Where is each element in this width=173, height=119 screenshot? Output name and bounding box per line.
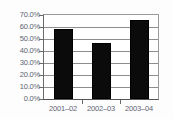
bar-chart: 0.0%10.0%20.0%30.0%40.0%50.0%60.0%70.0% … (0, 0, 173, 119)
x-axis-tick-label: 2002–03 (82, 104, 120, 113)
bar (92, 43, 111, 99)
y-axis-tick-label: 0.0% (0, 95, 40, 103)
y-axis-tick-label: 50.0% (0, 35, 40, 43)
bar (130, 20, 149, 99)
y-axis-tick-label: 60.0% (0, 23, 40, 31)
x-axis-tick-label: 2001–02 (44, 104, 82, 113)
x-axis-tick-label: 2003–04 (120, 104, 158, 113)
plot-area (43, 14, 159, 100)
y-axis-tick-label: 40.0% (0, 47, 40, 55)
y-axis-tick-label: 30.0% (0, 59, 40, 67)
y-axis-tick-label: 20.0% (0, 71, 40, 79)
y-axis-tick-label: 10.0% (0, 83, 40, 91)
y-axis-tick-label: 70.0% (0, 11, 40, 19)
bar (54, 29, 73, 99)
